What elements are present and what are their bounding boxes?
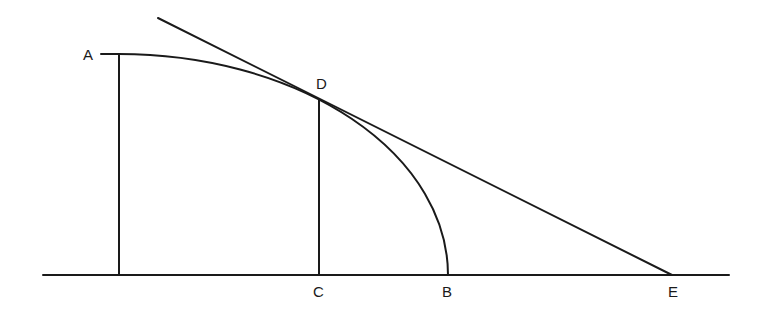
label-a: A — [83, 47, 93, 62]
tangent-line-de — [158, 18, 672, 275]
label-b: B — [442, 284, 452, 299]
ellipse-arc-ab — [119, 54, 448, 275]
diagram-canvas — [0, 0, 765, 316]
label-e: E — [668, 284, 678, 299]
label-d: D — [316, 76, 327, 91]
label-c: C — [313, 284, 324, 299]
